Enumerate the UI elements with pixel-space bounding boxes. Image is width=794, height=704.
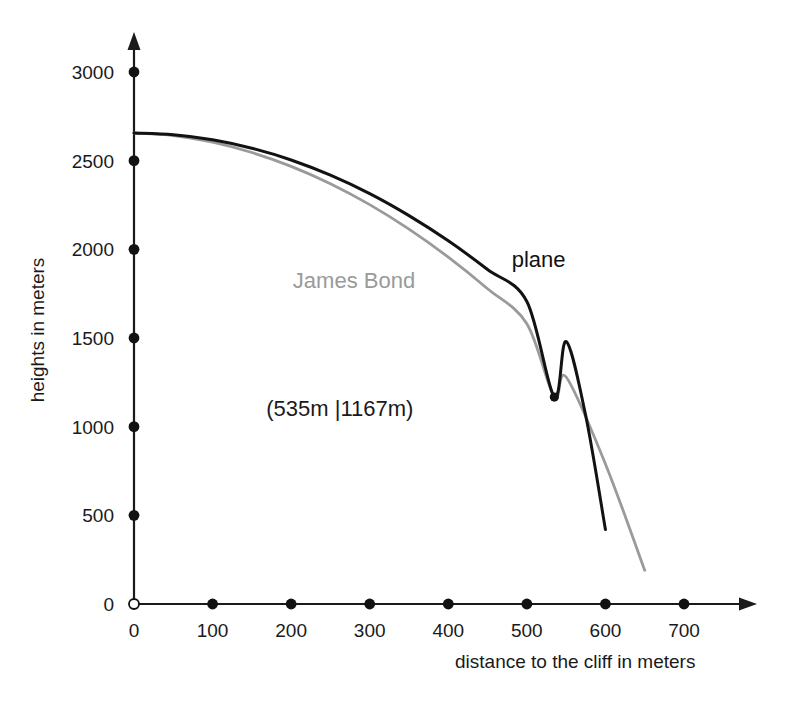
- projectile-chart: 0500100015002000250030000100200300400500…: [0, 0, 794, 704]
- x-tick-marker: [443, 599, 454, 610]
- series-label-james-bond: James Bond: [293, 268, 415, 293]
- series-label-plane: plane: [512, 247, 566, 272]
- x-axis-title: distance to the cliff in meters: [455, 651, 695, 672]
- y-tick-marker: [129, 421, 140, 432]
- x-tick-label: 0: [129, 620, 140, 641]
- y-axis-title: heights in meters: [27, 258, 48, 403]
- page-bottom-artifact: [0, 690, 794, 704]
- y-tick-label: 0: [103, 594, 114, 615]
- intersection-marker: [550, 392, 559, 401]
- x-tick-label: 400: [432, 620, 464, 641]
- y-tick-label: 3000: [72, 62, 114, 83]
- chart-figure: 0500100015002000250030000100200300400500…: [0, 0, 794, 704]
- y-tick-marker: [129, 67, 140, 78]
- x-tick-label: 600: [590, 620, 622, 641]
- y-tick-marker: [129, 510, 140, 521]
- y-tick-label: 2500: [72, 151, 114, 172]
- y-tick-marker: [129, 155, 140, 166]
- x-tick-marker: [207, 599, 218, 610]
- x-tick-label: 700: [668, 620, 700, 641]
- intersection-annotation-label: (535m |1167m): [266, 396, 413, 421]
- x-tick-marker: [521, 599, 532, 610]
- y-tick-label: 1000: [72, 417, 114, 438]
- x-tick-marker: [679, 599, 690, 610]
- x-tick-label: 200: [275, 620, 307, 641]
- x-tick-marker: [600, 599, 611, 610]
- y-tick-marker: [129, 244, 140, 255]
- chart-background: [0, 0, 794, 704]
- x-tick-marker: [286, 599, 297, 610]
- x-tick-marker: [364, 599, 375, 610]
- y-tick-label: 1500: [72, 328, 114, 349]
- y-tick-label: 500: [82, 505, 114, 526]
- x-tick-label: 100: [197, 620, 229, 641]
- x-tick-label: 500: [511, 620, 543, 641]
- y-tick-marker: [129, 333, 140, 344]
- origin-marker: [129, 599, 139, 609]
- x-tick-label: 300: [354, 620, 386, 641]
- y-tick-label: 2000: [72, 239, 114, 260]
